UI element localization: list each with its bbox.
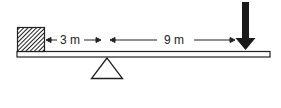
beam bbox=[17, 52, 270, 58]
dimension-label-3m: 3 m bbox=[58, 34, 82, 46]
diagram-drawing bbox=[0, 0, 281, 108]
fulcrum-triangle-icon bbox=[92, 58, 123, 79]
force-arrow-down-icon bbox=[236, 2, 256, 50]
dimension-label-9m: 9 m bbox=[162, 34, 186, 46]
lever-diagram: 3 m 9 m bbox=[0, 0, 281, 108]
mass-block bbox=[18, 28, 45, 52]
